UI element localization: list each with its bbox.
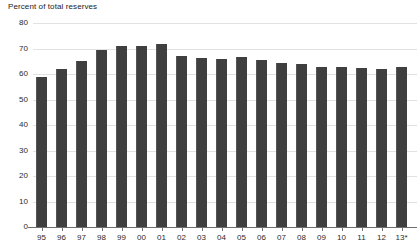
x-tick-label: 13* [389, 233, 415, 243]
y-tick-label: 70 [6, 45, 28, 53]
x-axis-line [28, 227, 417, 228]
bar [376, 69, 387, 227]
gridline [33, 23, 417, 24]
x-tick [342, 228, 343, 231]
bar [356, 68, 367, 227]
y-tick-label: 80 [6, 19, 28, 27]
bar [56, 69, 67, 227]
y-tick-label: 20 [6, 172, 28, 180]
x-tick [182, 228, 183, 231]
x-tick [82, 228, 83, 231]
bar [136, 46, 147, 227]
x-tick [162, 228, 163, 231]
x-tick [202, 228, 203, 231]
bar [196, 58, 207, 227]
y-tick-label: 60 [6, 70, 28, 78]
chart-container: Percent of total reserves 01020304050607… [0, 0, 419, 252]
x-tick [142, 228, 143, 231]
x-tick [322, 228, 323, 231]
bar [36, 77, 47, 227]
bar [256, 60, 267, 227]
bar [76, 61, 87, 227]
x-tick [62, 228, 63, 231]
bar [296, 64, 307, 227]
y-axis-labels: 01020304050607080 [0, 23, 28, 227]
bar [216, 59, 227, 227]
bar [176, 56, 187, 227]
plot-area [33, 23, 417, 227]
chart-title: Percent of total reserves [8, 2, 97, 11]
x-tick [402, 228, 403, 231]
y-tick-label: 30 [6, 147, 28, 155]
x-tick [122, 228, 123, 231]
bar [96, 50, 107, 227]
y-tick-label: 10 [6, 198, 28, 206]
x-tick [382, 228, 383, 231]
bar [156, 44, 167, 227]
x-tick [242, 228, 243, 231]
x-tick [302, 228, 303, 231]
bar [236, 57, 247, 227]
bar [316, 67, 327, 227]
x-tick [262, 228, 263, 231]
x-tick [42, 228, 43, 231]
y-tick-label: 40 [6, 121, 28, 129]
x-tick [362, 228, 363, 231]
bar [336, 67, 347, 227]
x-tick [282, 228, 283, 231]
bar [276, 63, 287, 227]
x-tick [102, 228, 103, 231]
gridline [33, 49, 417, 50]
bar [116, 46, 127, 227]
bar [396, 67, 407, 227]
y-tick-label: 50 [6, 96, 28, 104]
x-tick [222, 228, 223, 231]
y-tick-label: 0 [6, 223, 28, 231]
